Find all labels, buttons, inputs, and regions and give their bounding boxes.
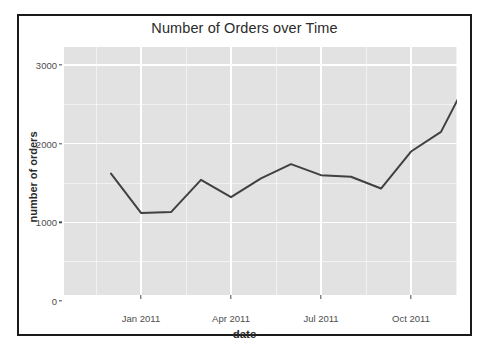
y-axis-tick-label: 0 [52, 296, 57, 307]
orders-line [111, 74, 457, 213]
plot-panel [64, 47, 457, 295]
y-axis-tick-mark [59, 143, 62, 144]
x-axis-tick-label: Apr 2011 [212, 313, 250, 324]
y-axis-title: number of orders [27, 117, 39, 237]
x-axis-title: date [19, 328, 470, 340]
y-axis-tick-mark [59, 222, 62, 223]
y-axis-tick-label: 1000 [36, 217, 57, 228]
x-axis-tick-mark [320, 295, 321, 299]
y-axis-tick-mark [59, 64, 62, 65]
y-axis-tick-label: 2000 [36, 138, 57, 149]
figure-frame: Number of Orders over Time 0100020003000… [17, 14, 472, 336]
x-axis-tick-label: Jul 2011 [303, 313, 338, 324]
x-axis-tick-label: Jan 2011 [122, 313, 160, 324]
x-axis-tick-mark [140, 295, 141, 299]
y-axis-tick-mark [59, 300, 62, 301]
page-title: Number of Orders over Time [19, 20, 470, 36]
x-axis-tick-labels: Jan 2011Apr 2011Jul 2011Oct 2011 [64, 313, 457, 329]
y-axis-tick-label: 3000 [36, 60, 57, 71]
data-series-line [64, 47, 457, 295]
chart-figure: Number of Orders over Time 0100020003000… [0, 0, 489, 350]
x-axis-tick-label: Oct 2011 [392, 313, 430, 324]
x-axis-tick-mark [230, 295, 231, 299]
x-axis-tick-mark [410, 295, 411, 299]
